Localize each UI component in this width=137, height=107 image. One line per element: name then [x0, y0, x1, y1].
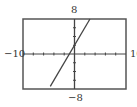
graph-line [50, 19, 90, 86]
ymax-label: 8 [71, 5, 77, 15]
xmin-label: −10 [4, 49, 25, 59]
axes [23, 19, 126, 89]
xmax-label: 10 [130, 49, 137, 59]
ymin-label: −8 [68, 93, 83, 103]
